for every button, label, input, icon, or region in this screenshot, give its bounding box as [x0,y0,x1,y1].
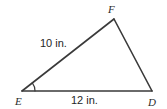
triangle-diagram-svg: F E D 10 in. 12 in. [0,0,167,109]
figure-background [0,0,167,109]
geometry-figure-canvas: F E D 10 in. 12 in. [0,0,167,109]
vertex-label-d: D [147,96,156,108]
side-measure-label-ed: 12 in. [71,94,98,106]
side-measure-label-ef: 10 in. [40,37,67,49]
vertex-label-e: E [14,95,22,107]
vertex-label-f: F [107,3,115,15]
